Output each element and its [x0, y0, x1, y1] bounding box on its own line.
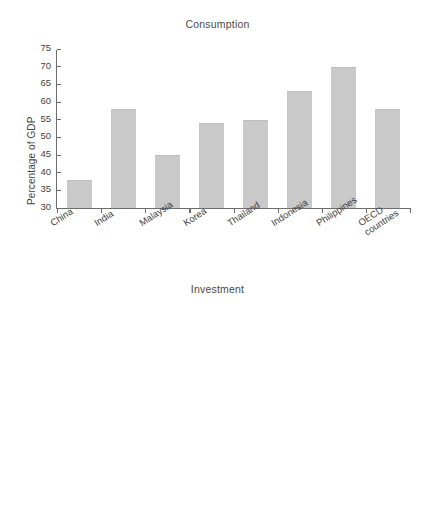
figure-canvas: Consumption Percentage of GDP 3035404550…: [0, 0, 435, 525]
bar-slot-india: [101, 50, 145, 208]
y-tick-label: 50: [40, 130, 51, 142]
x-tick-label-india: India: [92, 208, 115, 228]
x-tick-mark: [410, 208, 411, 213]
y-tick-label: 75: [40, 42, 51, 54]
bar-oecd-countries: [375, 109, 400, 208]
x-tick-label-china: China: [48, 205, 75, 228]
y-tick-label: 35: [40, 183, 51, 195]
bar-india: [111, 109, 136, 208]
bar-slot-thailand: [234, 50, 278, 208]
x-label-slot: Malaysia: [145, 217, 189, 267]
bar-philippines: [331, 67, 356, 208]
chart-title-consumption: Consumption: [0, 18, 435, 30]
chart-title-investment: Investment: [0, 283, 435, 295]
bar-china: [67, 180, 92, 208]
bar-korea: [199, 123, 224, 208]
x-label-slot: India: [100, 217, 144, 267]
y-tick-label: 60: [40, 95, 51, 107]
x-label-slot: Korea: [189, 217, 233, 267]
x-label-slot: China: [56, 217, 100, 267]
x-label-slot: OECDcountries: [366, 217, 410, 267]
y-tick-label: 40: [40, 166, 51, 178]
bar-slot-china: [57, 50, 101, 208]
y-tick-label: 55: [40, 113, 51, 125]
chart-investment: Investment Percentage of GDP 10152025303…: [0, 265, 435, 525]
y-tick-label: 65: [40, 77, 51, 89]
bar-series-consumption: [57, 50, 410, 208]
bar-slot-indonesia: [278, 50, 322, 208]
bar-thailand: [243, 120, 268, 208]
y-axis-title-consumption: Percentage of GDP: [26, 117, 37, 205]
x-tick-label-line1: India: [92, 208, 115, 228]
bar-slot-philippines: [322, 50, 366, 208]
y-tick-label: 70: [40, 60, 51, 72]
x-label-slot: Indonesia: [277, 217, 321, 267]
x-tick-label-line1: China: [48, 205, 75, 228]
chart-consumption: Consumption Percentage of GDP 3035404550…: [0, 0, 435, 265]
plot-area-consumption: 30354045505560657075: [56, 50, 410, 209]
bar-slot-oecd-countries: [366, 50, 410, 208]
bar-indonesia: [287, 91, 312, 208]
x-label-slot: Thailand: [233, 217, 277, 267]
bar-slot-malaysia: [145, 50, 189, 208]
x-axis-labels-consumption: ChinaIndiaMalaysiaKoreaThailandIndonesia…: [56, 217, 410, 267]
y-tick-label: 30: [40, 201, 51, 213]
y-tick-label: 45: [40, 148, 51, 160]
bar-slot-korea: [189, 50, 233, 208]
